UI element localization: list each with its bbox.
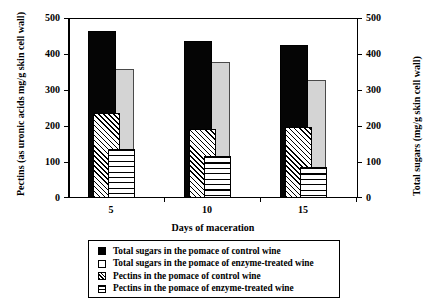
- bar-pectins-enzyme-g2: [204, 156, 231, 198]
- x-axis-category-label: 5: [91, 204, 131, 215]
- y-axis-left-tick-label: 100: [30, 157, 60, 167]
- chart-legend: Total sugars in the pomace of control wi…: [88, 240, 340, 298]
- chart-figure: 500 400 300 200 100 0 500 400 300 200 10…: [0, 0, 426, 306]
- legend-item: Pectins in the pomace of enzyme-treated …: [98, 283, 339, 296]
- legend-swatch-light-gray-icon: [98, 260, 106, 268]
- y-axis-right-line: [357, 18, 359, 198]
- legend-label: Total sugars in the pomace of enzyme-tre…: [113, 259, 314, 268]
- y-axis-left-tick: [64, 162, 68, 163]
- plot-area: [68, 18, 358, 198]
- y-axis-right-tick-label: 400: [366, 49, 396, 59]
- y-axis-right-tick-label: 500: [366, 13, 396, 23]
- legend-swatch-diagonal-hatch-icon: [98, 272, 106, 280]
- x-axis-title: Days of maceration: [0, 222, 426, 233]
- y-axis-right-tick: [358, 126, 362, 127]
- y-axis-left-tick-label: 0: [30, 193, 60, 203]
- legend-swatch-horizontal-lines-icon: [98, 285, 106, 293]
- y-axis-left-tick-label: 400: [30, 49, 60, 59]
- y-axis-left-tick-label: 200: [30, 121, 60, 131]
- y-axis-left-tick: [64, 18, 68, 19]
- x-axis-tick: [356, 198, 357, 202]
- y-axis-right-tick: [358, 162, 362, 163]
- legend-item: Total sugars in the pomace of enzyme-tre…: [98, 258, 339, 271]
- bar-pectins-enzyme-g1: [108, 149, 135, 198]
- y-axis-left-tick-label: 300: [30, 85, 60, 95]
- y-axis-left-tick-label: 500: [30, 13, 60, 23]
- y-axis-right-tick: [358, 18, 362, 19]
- legend-item: Total sugars in the pomace of control wi…: [98, 245, 339, 258]
- legend-label: Pectins in the pomace of enzyme-treated …: [113, 284, 294, 293]
- y-axis-right-title: Total sugars (mg/g skin cell wall): [412, 56, 422, 196]
- x-axis-tick: [164, 198, 165, 202]
- y-axis-right-tick: [358, 54, 362, 55]
- y-axis-left-tick: [64, 126, 68, 127]
- x-axis-category-label: 10: [187, 204, 227, 215]
- y-axis-left-tick: [64, 197, 68, 198]
- y-axis-right-tick: [358, 90, 362, 91]
- y-axis-right-tick: [358, 197, 362, 198]
- y-axis-left-tick: [64, 90, 68, 91]
- legend-swatch-solid-black-icon: [98, 247, 106, 255]
- y-axis-left-title: Pectins (as uronic acids mg/g skin cell …: [16, 12, 26, 196]
- plot-top-border: [68, 18, 358, 19]
- y-axis-left-tick: [64, 54, 68, 55]
- legend-label: Pectins in the pomace of control wine: [113, 272, 261, 281]
- y-axis-right-tick-label: 300: [366, 85, 396, 95]
- bar-pectins-enzyme-g3: [300, 167, 327, 198]
- legend-item: Pectins in the pomace of control wine: [98, 270, 339, 283]
- y-axis-right-tick-label: 0: [366, 193, 396, 203]
- x-axis-tick: [260, 198, 261, 202]
- y-axis-right-tick-label: 200: [366, 121, 396, 131]
- legend-label: Total sugars in the pomace of control wi…: [113, 247, 281, 256]
- y-axis-right-tick-label: 100: [366, 157, 396, 167]
- y-axis-left-line: [68, 18, 70, 198]
- x-axis-category-label: 15: [283, 204, 323, 215]
